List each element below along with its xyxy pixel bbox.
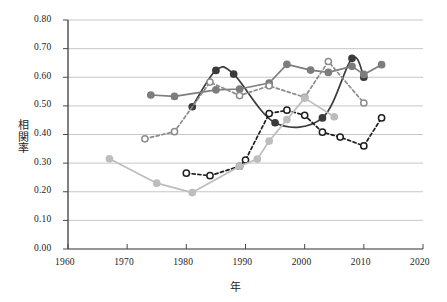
data-point [236, 163, 242, 169]
data-point [319, 115, 325, 121]
x-tick-marks-group [68, 244, 423, 249]
data-point [142, 136, 148, 142]
y-tick-marks-group [63, 20, 68, 249]
data-point [337, 134, 343, 140]
data-point [325, 69, 331, 75]
data-point [307, 67, 313, 73]
x-tick-label: 1970 [114, 257, 134, 267]
y-tick-label: 0.40 [34, 128, 51, 138]
data-point [207, 173, 213, 179]
chart-container: 0.000.100.200.300.400.500.600.700.80 196… [0, 0, 447, 302]
data-point [154, 180, 160, 186]
gridlines-group [68, 20, 423, 249]
series-line [109, 98, 334, 192]
data-point [148, 92, 154, 98]
data-point [272, 120, 278, 126]
data-point [231, 71, 237, 77]
x-axis-title: 年 [225, 278, 245, 294]
y-tick-label: 0.80 [34, 14, 51, 24]
x-tick-label: 1980 [173, 257, 193, 267]
data-point [331, 114, 337, 120]
data-point [189, 190, 195, 196]
data-point [106, 156, 112, 162]
x-tick-label: 2020 [410, 257, 430, 267]
data-point [213, 67, 219, 73]
y-tick-label: 0.30 [34, 157, 51, 167]
x-tick-label: 1990 [233, 257, 253, 267]
data-point [361, 100, 367, 106]
data-point [266, 111, 272, 117]
data-point [361, 71, 367, 77]
data-point [284, 107, 290, 113]
data-point [325, 58, 331, 64]
series-medium-gray-solid [148, 61, 385, 99]
data-point [319, 129, 325, 135]
y-tick-label: 0.70 [34, 42, 51, 52]
x-tick-label: 2000 [292, 257, 312, 267]
data-point [266, 83, 272, 89]
data-point [302, 95, 308, 101]
data-point [284, 117, 290, 123]
y-tick-label: 0.60 [34, 71, 51, 81]
data-point [266, 138, 272, 144]
data-point [378, 115, 384, 121]
series-light-gray-solid [106, 95, 337, 196]
data-point [171, 129, 177, 135]
data-point [236, 86, 242, 92]
y-tick-label: 0.50 [34, 99, 51, 109]
data-point [254, 156, 260, 162]
data-point [349, 63, 355, 69]
y-tick-label: 0.00 [34, 243, 51, 253]
y-tick-label: 0.10 [34, 214, 51, 224]
data-point [207, 79, 213, 85]
data-point [183, 170, 189, 176]
data-point [378, 62, 384, 68]
y-axis-title: 相関率 [16, 120, 30, 155]
data-point [236, 92, 242, 98]
data-point [284, 61, 290, 67]
y-tick-label: 0.20 [34, 185, 51, 195]
data-point [171, 93, 177, 99]
data-point [302, 112, 308, 118]
data-point [361, 143, 367, 149]
data-point [349, 55, 355, 61]
x-tick-label: 2010 [351, 257, 371, 267]
data-series-group [106, 55, 384, 195]
x-tick-label: 1960 [55, 257, 75, 267]
data-point [213, 87, 219, 93]
